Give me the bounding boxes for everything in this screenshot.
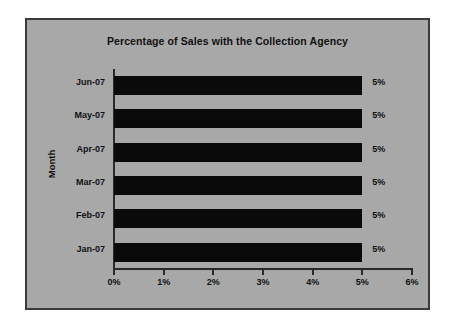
bar (114, 143, 362, 162)
x-tick-mark (113, 269, 115, 275)
bar-row: Mar-075% (114, 169, 412, 202)
bar-value-label: 5% (372, 244, 385, 254)
x-tick-mark (212, 269, 214, 275)
bar-row: Feb-075% (114, 202, 412, 235)
x-tick-mark (411, 269, 413, 275)
bar-row: May-075% (114, 102, 412, 135)
x-tick-label: 3% (256, 277, 269, 287)
bar-value-label: 5% (372, 110, 385, 120)
bar-value-label: 5% (372, 177, 385, 187)
bar-category-label: Mar-07 (76, 177, 105, 187)
bar (114, 243, 362, 262)
plot-area: Jun-075%May-075%Apr-075%Mar-075%Feb-075%… (114, 69, 412, 269)
x-tick-mark (262, 269, 264, 275)
bar-value-label: 5% (372, 77, 385, 87)
bar (114, 176, 362, 195)
x-tick-label: 2% (207, 277, 220, 287)
bar-row: Jan-075% (114, 236, 412, 269)
x-tick-label: 0% (107, 277, 120, 287)
x-tick-mark (163, 269, 165, 275)
bar-row: Jun-075% (114, 69, 412, 102)
chart-frame: Percentage of Sales with the Collection … (25, 18, 430, 310)
bar-row: Apr-075% (114, 136, 412, 169)
chart-title: Percentage of Sales with the Collection … (27, 35, 428, 47)
bar (114, 209, 362, 228)
bar-category-label: Jun-07 (76, 77, 105, 87)
bar-value-label: 5% (372, 144, 385, 154)
x-tick-mark (312, 269, 314, 275)
bar-category-label: Feb-07 (76, 210, 105, 220)
x-tick-label: 6% (405, 277, 418, 287)
bar (114, 76, 362, 95)
y-axis-title: Month (46, 150, 57, 179)
bar-category-label: Apr-07 (76, 144, 105, 154)
bar-category-label: May-07 (74, 110, 105, 120)
x-tick-label: 4% (306, 277, 319, 287)
x-tick-label: 1% (157, 277, 170, 287)
x-tick-label: 5% (356, 277, 369, 287)
bar-value-label: 5% (372, 210, 385, 220)
x-tick-mark (361, 269, 363, 275)
bar (114, 109, 362, 128)
bar-category-label: Jan-07 (76, 244, 105, 254)
